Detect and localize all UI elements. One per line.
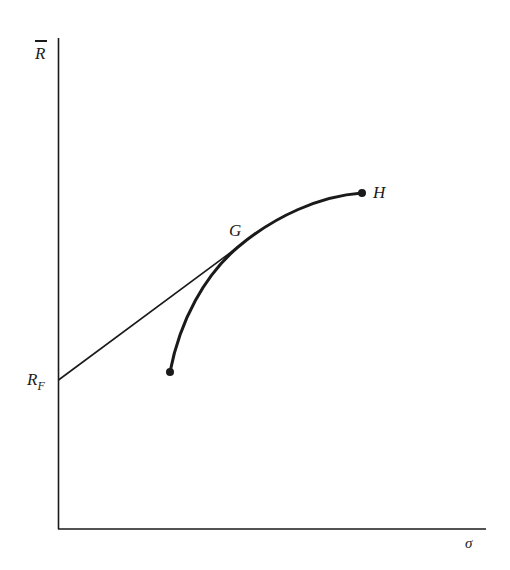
risk-free-label: RF [27,371,45,388]
x-axis-label: σ [465,536,472,551]
tangency-label: G [229,222,241,239]
point-h-label: H [373,184,385,201]
r-overbar [35,40,47,42]
efficient-frontier-curve [170,193,362,372]
min-variance-point [166,368,174,376]
point-h [358,189,366,197]
y-axis-label: R [35,45,45,62]
risk-free-label-subscript: F [37,379,44,393]
risk-free-label-main: R [27,370,37,389]
diagram-canvas [0,0,510,570]
capital-market-line [59,247,239,380]
